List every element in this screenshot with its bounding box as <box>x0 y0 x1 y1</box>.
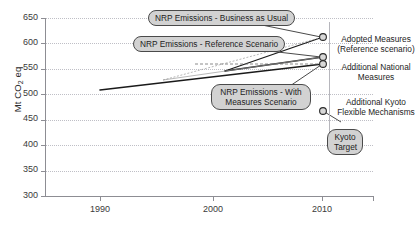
x-tick-label-2000: 2000 <box>203 204 223 214</box>
callout-with-measures-scenario[interactable]: NRP Emissions - With Measures Scenario <box>211 84 311 110</box>
y-tick-label: 400 <box>4 140 38 149</box>
callout-with-measures-line2: Measures Scenario <box>225 97 296 107</box>
right-note-adopted-line2: (Reference scenario) <box>334 44 418 54</box>
callout-kyoto-line2: Target <box>334 142 357 152</box>
right-note-adopted-line1: Adopted Measures <box>334 34 418 44</box>
series-line-reference-extension <box>163 57 323 80</box>
callout-kyoto-line1: Kyoto <box>334 132 355 142</box>
y-tick-label-group: 650 600 550 500 450 400 350 300 <box>4 0 38 230</box>
y-tick-label: 450 <box>4 114 38 123</box>
y-tick-label: 350 <box>4 165 38 174</box>
marker-with-measures-2010 <box>320 61 327 68</box>
y-tick-label: 650 <box>4 13 38 22</box>
callout-reference-scenario[interactable]: NRP Emissions - Reference Scenario <box>133 36 285 52</box>
x-tickmark-2010 <box>322 196 323 201</box>
right-notes-leader-rule <box>329 22 330 142</box>
y-tick-label: 500 <box>4 89 38 98</box>
callout-kyoto-target[interactable]: Kyoto Target <box>327 129 363 155</box>
right-note-kyoto-flex-line2: Flexible Mechanisms <box>334 107 418 117</box>
y-tick-label: 300 <box>4 191 38 200</box>
callout-with-measures-line1: NRP Emissions - With <box>220 87 301 97</box>
x-tickmark-end <box>373 196 374 201</box>
y-tick-label: 600 <box>4 38 38 47</box>
marker-business-as-usual-2010 <box>320 34 327 41</box>
right-note-national-line2: Measures <box>334 72 418 82</box>
right-note-additional-national-measures: Additional National Measures <box>334 62 418 82</box>
x-tickmark-2000 <box>213 196 214 201</box>
x-tick-label-2010: 2010 <box>312 204 332 214</box>
y-tick-label: 550 <box>4 63 38 72</box>
chart-root: Mt CO2 eq 650 600 550 500 450 400 350 30… <box>0 0 419 230</box>
right-note-kyoto-flex-line1: Additional Kyoto <box>334 97 418 107</box>
right-note-national-line1: Additional National <box>334 62 418 72</box>
right-note-adopted-measures: Adopted Measures (Reference scenario) <box>334 34 418 54</box>
x-tickmark-1990 <box>100 196 101 201</box>
marker-reference-scenario-2010 <box>320 54 327 61</box>
x-axis-line <box>45 196 373 197</box>
marker-kyoto-target-2010 <box>320 108 327 115</box>
callout-business-as-usual[interactable]: NRP Emissions - Business as Usual <box>148 10 295 26</box>
right-note-additional-kyoto-flexible-mechanisms: Additional Kyoto Flexible Mechanisms <box>334 97 418 117</box>
x-tick-label-1990: 1990 <box>90 204 110 214</box>
